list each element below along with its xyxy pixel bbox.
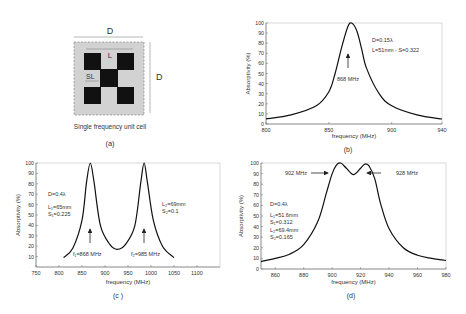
y-tick-label: 40 [253, 224, 259, 230]
y-tick-label: 50 [28, 212, 34, 218]
y-tick-label: 30 [28, 233, 34, 239]
y-axis-label: Absorptivity (%) [238, 195, 244, 237]
x-tick-label: 850 [77, 270, 86, 276]
y-tick-label: 50 [258, 71, 264, 77]
annot-d-s1: S₁=0.312 [270, 219, 293, 225]
x-tick-label: 900 [387, 127, 396, 133]
y-tick-label: 90 [253, 171, 259, 177]
y-tick-label: 70 [28, 191, 34, 197]
y-tick-label: 80 [258, 40, 264, 46]
absorptivity-curve [64, 163, 174, 258]
y-axis-label: Absorptivity (%) [245, 52, 251, 94]
y-tick-label: 0 [256, 266, 259, 272]
y-tick-label: 40 [258, 81, 264, 87]
y-tick-label: 20 [258, 101, 264, 107]
y-tick-label: 30 [258, 91, 264, 97]
annot-c-d: D=0.4λ [48, 191, 66, 197]
annot-d-l2: L₂=69.4mm [270, 227, 299, 233]
panel-a-unit-cell: D D L SL Single frequency unit cell (a) [74, 26, 163, 148]
dim-l: L [108, 51, 113, 60]
x-tick-label: 1100 [191, 270, 203, 276]
panel-d-label: (d) [347, 292, 356, 300]
absorptivity-curve [266, 23, 442, 119]
annot-b-l: L=51mm - S=0.322 [372, 47, 419, 53]
dim-d-side: D [156, 72, 163, 82]
y-tick-label: 80 [253, 181, 259, 187]
x-tick-label: 960 [413, 272, 422, 278]
x-tick-label: 900 [328, 272, 337, 278]
y-axis-label: Absorptivity (%) [15, 194, 21, 236]
x-tick-label: 860 [271, 272, 280, 278]
x-axis-label: frequency (MHz) [106, 279, 150, 285]
y-tick-label: 80 [28, 181, 34, 187]
y-tick-label: 60 [253, 202, 259, 208]
y-tick-label: 30 [253, 234, 259, 240]
x-tick-label: 940 [384, 272, 393, 278]
panel-a-label: (a) [105, 139, 115, 148]
annot-d-d: D=0.4λ [270, 201, 288, 207]
dim-sl: SL [86, 73, 95, 80]
y-tick-label: 10 [28, 254, 34, 260]
plot-frame [266, 23, 442, 124]
y-tick-label: 100 [25, 160, 34, 166]
x-axis-label: frequency (MHz) [331, 279, 375, 285]
unit-cell-caption: Single frequency unit cell [74, 123, 147, 131]
x-axis-label: frequency (MHz) [332, 133, 376, 139]
x-tick-label: 800 [54, 270, 63, 276]
figure: D D L SL Single frequency unit cell (a) … [0, 0, 466, 314]
annot-b-peak: 868 MHz [337, 76, 359, 82]
x-tick-label: 750 [31, 270, 40, 276]
y-tick-label: 60 [28, 202, 34, 208]
annot-c-f2: f₂=985 MHz [131, 251, 160, 257]
annot-c-l1: L₁=65mm [48, 204, 72, 210]
dim-d-top: D [107, 26, 114, 36]
annot-d-s2: S₂=0.165 [270, 234, 293, 240]
y-tick-label: 20 [253, 245, 259, 251]
annot-c-s1: S₁=0.225 [48, 211, 71, 217]
annot-c-s2: S₂=0.1 [162, 208, 179, 214]
x-tick-label: 1050 [168, 270, 180, 276]
x-tick-label: 940 [437, 127, 446, 133]
panel-c-label: (c ) [113, 292, 123, 300]
y-tick-label: 100 [250, 160, 259, 166]
x-tick-label: 1000 [145, 270, 157, 276]
y-tick-label: 70 [258, 50, 264, 56]
y-tick-label: 90 [28, 170, 34, 176]
y-tick-label: 20 [28, 243, 34, 249]
x-tick-label: 950 [123, 270, 132, 276]
y-tick-label: 100 [255, 20, 264, 26]
x-tick-label: 920 [356, 272, 365, 278]
x-tick-label: 800 [261, 127, 270, 133]
y-tick-label: 10 [258, 111, 264, 117]
x-tick-label: 880 [299, 272, 308, 278]
annot-c-l2: L₂=69mm [162, 201, 186, 207]
y-tick-label: 70 [253, 192, 259, 198]
annot-d-p2: 928 MHz [396, 170, 418, 176]
x-tick-label: 900 [100, 270, 109, 276]
y-tick-label: 60 [258, 60, 264, 66]
annot-d-p1: 902 MHz [285, 170, 307, 176]
y-tick-label: 10 [253, 255, 259, 261]
annot-d-l1: L₁=51.6mm [270, 212, 298, 218]
y-tick-label: 40 [28, 222, 34, 228]
annot-c-f1: f₁=868 MHz [73, 251, 102, 257]
annot-b-d: D=0.15λ [372, 37, 393, 43]
y-tick-label: 50 [253, 213, 259, 219]
y-tick-label: 90 [258, 30, 264, 36]
panel-c-chart: 1020304050607080901007508008509009501000… [15, 160, 220, 285]
panel-b-label: (b) [344, 146, 353, 154]
x-tick-label: 980 [441, 272, 450, 278]
